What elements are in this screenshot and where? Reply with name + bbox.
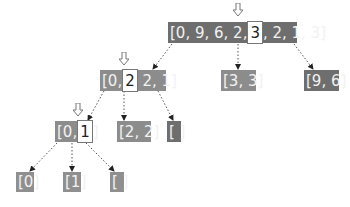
root-left-part: [0, 9, 6, 2, [170,24,247,42]
left-left-pivot: 1 [77,120,93,143]
pivot-down-arrow-icon [233,3,243,17]
root-node: [0, 9, 6, 2, 3 , 2, 1, 3] [168,22,297,43]
root-pivot: 3 [247,21,263,44]
left-left-left-part: [0, [57,123,77,141]
left-child-node: [0, 2 2, 1] [100,70,166,91]
edge-n-left-to-n-ll [88,91,104,120]
edge-n-left-to-n-lr [158,91,173,120]
edge-n-ll-to-leaf-0 [30,143,57,171]
pivot-down-arrow-icon [73,103,83,117]
left-left-right-part: ] [93,123,99,141]
root-right-part: , 2, 1, 3] [263,24,326,42]
leaf-node-empty: [ ] [110,172,124,192]
edge-root-to-n-right [294,44,313,69]
edge-n-ll-to-leaf-empty [86,143,114,171]
leaf-node-1: [1] [63,172,81,192]
left-right-node: [ ] [167,121,181,142]
left-child-right-part: 2, 1] [138,72,177,90]
leaf-node-0: [0] [16,172,34,192]
pivot-down-arrow-icon [119,52,129,66]
middle-child-node: [3, 3] [221,70,256,91]
right-child-node: [9, 6] [304,70,339,91]
edge-root-to-n-left [153,44,172,69]
left-middle-node: [2, 2] [117,121,151,142]
left-child-pivot: 2 [122,69,138,92]
left-child-left-part: [0, [102,72,122,90]
left-left-node: [0, 1 ] [55,121,87,142]
